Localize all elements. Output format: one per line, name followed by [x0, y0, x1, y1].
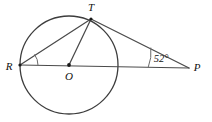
- angle-arc-p: [148, 48, 151, 68]
- angle-label-p: 52°: [154, 53, 170, 64]
- geometry-diagram: R T O P 52°: [0, 0, 212, 122]
- vertex-dot-r: [18, 63, 21, 66]
- point-label-p: P: [193, 61, 201, 73]
- segment-r-p: [20, 65, 189, 68]
- point-label-r: R: [5, 60, 13, 72]
- point-label-t: T: [88, 1, 95, 13]
- segment-t-p: [91, 19, 189, 68]
- vertex-dot-o: [67, 63, 71, 67]
- point-label-o: O: [65, 70, 73, 82]
- geometry-canvas: R T O P 52°: [0, 0, 212, 122]
- angle-arc-r: [35, 54, 39, 65]
- vertex-dot-t: [89, 17, 92, 20]
